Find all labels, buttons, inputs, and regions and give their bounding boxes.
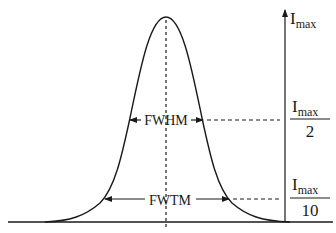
fwtm-label: FWTM bbox=[149, 193, 192, 208]
tenth-max-numerator: Imax bbox=[292, 175, 318, 197]
fwtm-group: FWTM Imax 10 bbox=[105, 175, 330, 220]
tenth-max-denominator: 10 bbox=[302, 201, 319, 220]
fwhm-group: FWHM Imax 2 bbox=[130, 97, 330, 141]
fwhm-label: FWHM bbox=[144, 113, 188, 128]
imax-axis-label: Imax bbox=[290, 9, 316, 31]
half-max-denominator: 2 bbox=[306, 122, 315, 141]
half-max-numerator: Imax bbox=[292, 97, 318, 119]
gaussian-diagram: Imax FWHM Imax 2 FWTM Imax 10 bbox=[0, 0, 336, 233]
